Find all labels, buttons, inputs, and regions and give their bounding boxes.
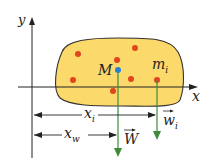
xi-label-sub: i (92, 114, 95, 124)
total-weight-arrowhead-icon (114, 148, 122, 157)
xw-label-sub: w (72, 134, 80, 144)
xw-label-text: x (64, 125, 72, 141)
xw-left-arrow-icon (34, 132, 42, 138)
y-axis-label: y (18, 13, 25, 26)
center-of-mass-diagram (0, 0, 212, 166)
xi-label-text: x (84, 105, 92, 121)
xi-label: xi (84, 106, 95, 124)
xw-right-arrow-icon (109, 132, 117, 138)
mass-weight-label: wi (163, 113, 178, 131)
center-of-mass-point (115, 67, 121, 73)
center-of-mass-label: M (98, 63, 112, 77)
y-axis-arrow-icon (29, 17, 35, 25)
mass-label-sub: i (165, 65, 168, 75)
xi-left-arrow-icon (34, 112, 42, 118)
mass-label-text: m (152, 56, 165, 72)
xi-right-arrow-icon (148, 112, 156, 118)
xw-label: xw (64, 126, 80, 144)
mass-weight-arrowhead-icon (153, 131, 161, 140)
total-weight-label: W (124, 132, 138, 146)
wi-label-text: w (163, 112, 175, 128)
mass-label: mi (152, 57, 168, 75)
wi-label-sub: i (175, 121, 178, 131)
x-axis-label: x (192, 89, 200, 103)
